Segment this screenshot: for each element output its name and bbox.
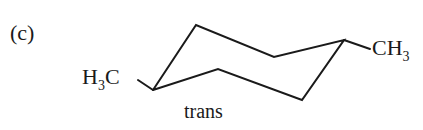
- ring-bonds: [153, 25, 344, 100]
- isomer-caption: trans: [184, 101, 223, 121]
- right-methyl-bond: [344, 40, 370, 49]
- left-methyl-bond: [138, 80, 153, 90]
